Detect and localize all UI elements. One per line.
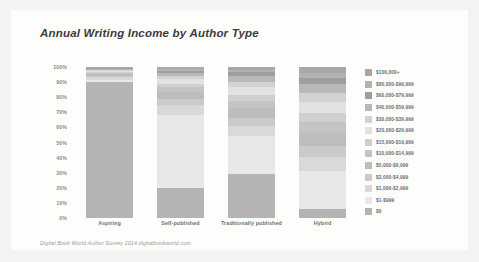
legend-item[interactable]: $30,000-$39,999 xyxy=(365,113,470,125)
y-axis-tick: 70% xyxy=(56,109,67,115)
bar-segment[interactable] xyxy=(299,171,346,209)
legend-swatch-icon xyxy=(365,116,372,123)
legend-item[interactable]: $60,000-$79,999 xyxy=(365,90,470,102)
y-axis-tick: 10% xyxy=(56,200,67,206)
y-axis-tick: 80% xyxy=(56,94,67,100)
legend-swatch-icon xyxy=(365,81,372,88)
bar-stack xyxy=(299,67,346,218)
x-axis-tick: Self-published xyxy=(145,220,216,226)
x-axis-tick: Aspiring xyxy=(74,220,145,226)
legend-label: $1-$999 xyxy=(376,198,394,203)
y-axis-tick: 100% xyxy=(53,64,67,70)
legend-swatch-icon xyxy=(365,139,372,146)
legend-label: $40,000-$59,999 xyxy=(376,105,414,110)
y-axis-tick: 30% xyxy=(56,170,67,176)
bar-segment[interactable] xyxy=(86,82,133,218)
bar-segment[interactable] xyxy=(228,126,275,137)
bar-segment[interactable] xyxy=(228,118,275,126)
bar-segment[interactable] xyxy=(157,115,204,187)
legend-item[interactable]: $20,000-$29,999 xyxy=(365,125,470,137)
x-axis-tick: Traditionally published xyxy=(216,220,287,226)
legend-label: $80,000-$99,999 xyxy=(376,82,414,87)
legend-label: $10,000-$14,999 xyxy=(376,151,414,156)
bar-segment[interactable] xyxy=(228,101,275,109)
legend-item[interactable]: $1,000-$2,999 xyxy=(365,183,470,195)
legend-item[interactable]: $15,000-$19,999 xyxy=(365,137,470,149)
bar-stack xyxy=(228,67,275,218)
legend-item[interactable]: $3,000-$4,999 xyxy=(365,171,470,183)
bar-segment[interactable] xyxy=(157,188,204,218)
legend-swatch-icon xyxy=(365,162,372,169)
bar-segment[interactable] xyxy=(299,93,346,101)
legend-label: $5,000-$9,999 xyxy=(376,163,408,168)
legend-item[interactable]: $1-$999 xyxy=(365,195,470,207)
bar-stack xyxy=(86,67,133,218)
bar-segment[interactable] xyxy=(157,92,204,99)
legend-swatch-icon xyxy=(365,208,372,215)
y-axis-tick: 50% xyxy=(56,140,67,146)
bar-segment[interactable] xyxy=(299,133,346,147)
plot-area xyxy=(74,67,358,218)
legend-item[interactable]: $5,000-$9,999 xyxy=(365,160,470,172)
legend-swatch-icon xyxy=(365,69,372,76)
legend-label: $30,000-$39,999 xyxy=(376,117,414,122)
bar-segment[interactable] xyxy=(228,136,275,174)
legend-swatch-icon xyxy=(365,92,372,99)
bar-column[interactable] xyxy=(299,67,346,218)
bar-segment[interactable] xyxy=(299,122,346,133)
bar-segment[interactable] xyxy=(299,157,346,171)
x-axis: AspiringSelf-publishedTraditionally publ… xyxy=(74,220,358,232)
x-axis-tick: Hybrid xyxy=(287,220,358,226)
y-axis-tick: 0% xyxy=(59,215,67,221)
y-axis: 100%90%80%70%60%50%40%30%20%10%0% xyxy=(33,67,71,218)
bar-column[interactable] xyxy=(86,67,133,218)
chart-card: Annual Writing Income by Author Type 100… xyxy=(11,10,468,250)
legend-item[interactable]: $100,000+ xyxy=(365,67,470,79)
legend-label: $100,000+ xyxy=(376,70,400,75)
legend-label: $1,000-$2,999 xyxy=(376,186,408,191)
source-note: Digital Book World Author Survey 2014 di… xyxy=(40,240,191,246)
chart-legend: $100,000+$80,000-$99,999$60,000-$79,999$… xyxy=(365,67,470,218)
bar-segment[interactable] xyxy=(299,78,346,85)
legend-swatch-icon xyxy=(365,127,372,134)
y-axis-tick: 40% xyxy=(56,155,67,161)
legend-label: $0 xyxy=(376,209,382,214)
legend-label: $20,000-$29,999 xyxy=(376,128,414,133)
bar-column[interactable] xyxy=(228,67,275,218)
bar-segment[interactable] xyxy=(299,209,346,218)
bar-segment[interactable] xyxy=(228,87,275,95)
chart-figure: Annual Writing Income by Author Type 100… xyxy=(0,0,479,262)
legend-item[interactable]: $80,000-$99,999 xyxy=(365,79,470,91)
legend-swatch-icon xyxy=(365,185,372,192)
bar-column[interactable] xyxy=(157,67,204,218)
bar-segment[interactable] xyxy=(299,113,346,122)
y-axis-tick: 90% xyxy=(56,79,67,85)
legend-swatch-icon xyxy=(365,104,372,111)
legend-label: $15,000-$19,999 xyxy=(376,140,414,145)
y-axis-tick: 20% xyxy=(56,185,67,191)
bar-segment[interactable] xyxy=(228,108,275,118)
bar-segment[interactable] xyxy=(299,102,346,113)
legend-label: $3,000-$4,999 xyxy=(376,175,408,180)
bar-segment[interactable] xyxy=(299,146,346,157)
legend-swatch-icon xyxy=(365,197,372,204)
legend-item[interactable]: $0 xyxy=(365,206,470,218)
legend-label: $60,000-$79,999 xyxy=(376,93,414,98)
y-axis-tick: 60% xyxy=(56,124,67,130)
legend-swatch-icon xyxy=(365,174,372,181)
bar-segment[interactable] xyxy=(299,84,346,93)
bar-stack xyxy=(157,67,204,218)
bar-segment[interactable] xyxy=(157,105,204,116)
legend-item[interactable]: $40,000-$59,999 xyxy=(365,102,470,114)
legend-swatch-icon xyxy=(365,150,372,157)
bar-segment[interactable] xyxy=(228,174,275,218)
legend-item[interactable]: $10,000-$14,999 xyxy=(365,148,470,160)
page-title: Annual Writing Income by Author Type xyxy=(40,27,259,39)
